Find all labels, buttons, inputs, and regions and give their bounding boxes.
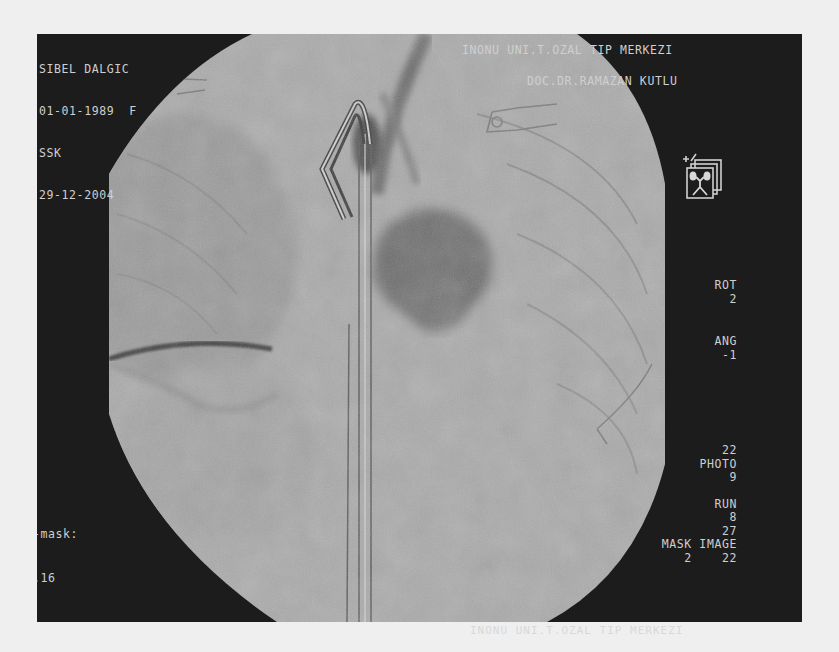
patient-birth-date: 01-01-1989 <box>39 104 114 118</box>
patient-info: SIBEL DALGIC 01-01-1989 F SSK 29-12-2004 <box>39 34 137 230</box>
mask-value: 2 <box>684 551 692 565</box>
photo-label: PHOTO <box>662 458 737 472</box>
run-sub-value: 27 <box>662 525 737 539</box>
mask-image-values: 2 22 <box>662 552 737 566</box>
geometry-panel: ROT 2 <box>714 278 737 306</box>
ang-value: -1 <box>714 348 737 362</box>
mask-time-label: -mask: <box>37 527 86 542</box>
image-value: 22 <box>722 551 737 565</box>
timing-panel: -mask: .16 -image: .84 -run: ?:53:36 <box>37 498 86 622</box>
patient-name: SIBEL DALGIC <box>39 62 137 76</box>
angiography-monitor: SIBEL DALGIC 01-01-1989 F SSK 29-12-2004… <box>37 34 802 622</box>
rot-value: 2 <box>714 292 737 306</box>
counter-top-value: 22 <box>662 444 737 458</box>
kidney-series-icon <box>680 151 730 205</box>
spacer <box>662 485 737 498</box>
study-date: 29-12-2004 <box>39 188 137 202</box>
patient-insurance: SSK <box>39 146 137 160</box>
run-label: RUN <box>662 498 737 512</box>
geometry-panel-ang: ANG -1 <box>714 334 737 362</box>
ang-label: ANG <box>714 334 737 348</box>
patient-birth-sex: 01-01-1989 F <box>39 104 137 118</box>
run-value: 8 <box>662 511 737 525</box>
spacer <box>37 614 86 621</box>
photo-value: 9 <box>662 471 737 485</box>
hospital-name: INONU UNI.T.OZAL TIP MERKEZI <box>462 43 673 57</box>
mask-image-label: MASK IMAGE <box>662 538 737 552</box>
counters-panel: 22 PHOTO 9 RUN 8 27 MASK IMAGE 2 22 <box>662 444 737 565</box>
rot-label: ROT <box>714 278 737 292</box>
page: INONU UNI.T.OZAL TIP MERKEZI <box>0 0 839 652</box>
mask-time-value: .16 <box>37 571 86 586</box>
physician-name: DOC.DR.RAMAZAN KUTLU <box>527 74 677 88</box>
patient-sex: F <box>129 104 137 118</box>
bottom-ghost-text: INONU UNI.T.OZAL TIP MERKEZI <box>470 624 683 637</box>
